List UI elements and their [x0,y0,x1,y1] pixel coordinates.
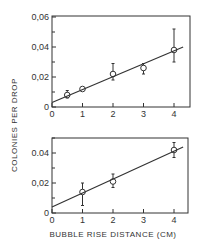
chart: 00,020,040,0601234 00,020.0401234 COLONI… [0,0,201,250]
x-tick-label: 1 [80,215,85,225]
top-panel: 00,020,040,0601234 [31,12,190,119]
y-tick-label: 0,06 [31,12,49,22]
bottom-panel: 00,020.0401234 [31,138,188,225]
x-tick-label: 3 [141,215,146,225]
y-tick-label: 0.04 [31,148,49,158]
data-point [141,65,147,71]
fit-line [52,47,183,103]
x-axis-label: BUBBLE RISE DISTANCE (CM) [49,230,176,239]
x-tick-label: 4 [171,109,176,119]
y-tick-label: 0,02 [31,178,49,188]
y-axis-label: COLONIES PER DROP [10,78,19,172]
y-tick-label: 0 [44,102,49,112]
x-tick-label: 2 [110,109,115,119]
x-tick-label: 0 [49,109,54,119]
y-tick-label: 0,04 [31,42,49,52]
x-tick-label: 0 [49,215,54,225]
x-tick-label: 2 [110,215,115,225]
y-tick-label: 0,02 [31,72,49,82]
x-tick-label: 3 [141,109,146,119]
x-tick-label: 1 [80,109,85,119]
fit-line [52,147,183,207]
x-tick-label: 4 [171,215,176,225]
y-tick-label: 0 [44,208,49,218]
